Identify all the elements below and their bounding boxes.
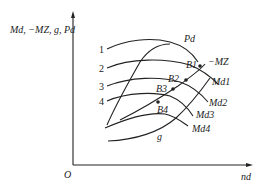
md2-label: Md2 xyxy=(209,98,227,108)
md3-label: Md3 xyxy=(196,110,214,120)
curve-number-1: 1 xyxy=(99,45,104,55)
point-b1: B1 xyxy=(186,60,197,70)
y-axis-label: Md, −MZ, g, Pd xyxy=(10,25,75,35)
pd-label: Pd xyxy=(184,34,195,44)
curve-md4 xyxy=(105,114,188,128)
curve-number-2: 2 xyxy=(99,64,104,74)
g-label: g xyxy=(157,132,162,142)
diagram: Md, −MZ, g, Pd nd O 1 2 3 4 Pd −MZ Md1 M… xyxy=(0,0,267,190)
curve-number-3: 3 xyxy=(99,82,104,92)
md1-label: Md1 xyxy=(212,77,230,87)
curve-md3 xyxy=(107,93,193,116)
origin-label: O xyxy=(64,170,71,180)
x-axis-label: nd xyxy=(241,172,251,182)
md4-label: Md4 xyxy=(192,124,210,134)
mz-label: −MZ xyxy=(208,57,229,67)
point-b2: B2 xyxy=(168,74,179,84)
point-b3: B3 xyxy=(156,84,167,94)
curve-number-4: 4 xyxy=(99,97,104,107)
point-b4: B4 xyxy=(157,105,168,115)
curve-md1 xyxy=(107,60,218,84)
